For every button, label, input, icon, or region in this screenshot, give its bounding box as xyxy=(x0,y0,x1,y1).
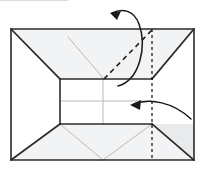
origami-diagram xyxy=(0,0,205,184)
origami-figure xyxy=(0,0,205,184)
